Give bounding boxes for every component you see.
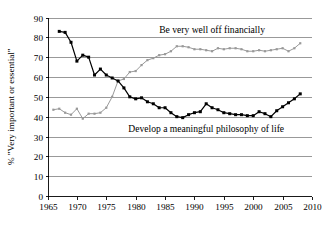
data-point bbox=[246, 50, 248, 52]
chart-container: 0102030405060708090196519701975198019851… bbox=[0, 0, 327, 228]
data-point bbox=[64, 31, 67, 34]
data-point bbox=[258, 49, 260, 51]
data-point bbox=[135, 70, 137, 72]
data-point bbox=[76, 108, 78, 110]
y-tick-label-30: 30 bbox=[34, 133, 44, 143]
data-point bbox=[134, 97, 137, 100]
data-point bbox=[117, 79, 120, 82]
data-point bbox=[293, 97, 296, 100]
data-point bbox=[234, 113, 237, 116]
data-point bbox=[70, 114, 72, 116]
x-tick-label-1995: 1995 bbox=[215, 202, 234, 212]
data-point bbox=[99, 68, 102, 71]
data-point bbox=[246, 114, 249, 117]
data-point bbox=[223, 48, 225, 50]
data-point bbox=[99, 112, 101, 114]
data-point bbox=[140, 96, 143, 99]
data-point bbox=[58, 108, 60, 110]
x-tick-label-2010: 2010 bbox=[303, 202, 322, 212]
data-point bbox=[269, 115, 272, 118]
data-point bbox=[252, 50, 254, 52]
data-point bbox=[93, 113, 95, 115]
data-point bbox=[240, 113, 243, 116]
axes bbox=[49, 18, 313, 197]
x-tick-label-1970: 1970 bbox=[68, 202, 87, 212]
data-point bbox=[169, 111, 172, 114]
data-point bbox=[146, 59, 148, 61]
series-philosophy bbox=[58, 30, 302, 119]
data-point bbox=[293, 47, 295, 49]
data-point bbox=[199, 48, 201, 50]
data-point bbox=[175, 115, 178, 118]
data-point bbox=[58, 30, 61, 33]
data-point bbox=[129, 71, 131, 73]
data-point bbox=[52, 109, 54, 111]
x-tick-label-1990: 1990 bbox=[185, 202, 204, 212]
data-point bbox=[205, 102, 208, 105]
data-point bbox=[105, 74, 108, 77]
data-point bbox=[70, 41, 73, 44]
y-tick-label-0: 0 bbox=[38, 192, 43, 202]
data-point bbox=[75, 60, 78, 63]
data-point bbox=[275, 109, 278, 112]
data-point bbox=[252, 114, 255, 117]
series-line bbox=[53, 43, 300, 118]
data-point bbox=[211, 50, 213, 52]
data-point bbox=[164, 106, 167, 109]
data-point bbox=[187, 46, 189, 48]
y-tick-label-70: 70 bbox=[34, 53, 44, 63]
data-point bbox=[111, 76, 114, 79]
data-point bbox=[93, 74, 96, 77]
data-point bbox=[234, 47, 236, 49]
data-point bbox=[263, 112, 266, 115]
y-tick-label-20: 20 bbox=[34, 152, 44, 162]
data-point bbox=[270, 49, 272, 51]
data-point bbox=[229, 47, 231, 49]
data-point bbox=[122, 86, 125, 89]
data-point bbox=[111, 96, 113, 98]
y-tick-label-40: 40 bbox=[34, 113, 44, 123]
y-tick-label-50: 50 bbox=[34, 93, 44, 103]
y-axis-title: % "Very important or essential" bbox=[6, 48, 16, 165]
data-point bbox=[123, 78, 125, 80]
data-point bbox=[140, 64, 142, 66]
data-point bbox=[299, 92, 302, 95]
data-point bbox=[152, 102, 155, 105]
data-point bbox=[281, 105, 284, 108]
data-point bbox=[258, 110, 261, 113]
y-tick-label-10: 10 bbox=[34, 172, 44, 182]
data-point bbox=[199, 110, 202, 113]
gridlines bbox=[48, 19, 313, 177]
y-axis: 0102030405060708090 bbox=[34, 14, 49, 202]
data-point bbox=[170, 50, 172, 52]
y-tick-label-60: 60 bbox=[34, 73, 44, 83]
data-point bbox=[205, 49, 207, 51]
data-point bbox=[182, 45, 184, 47]
x-tick-label-1965: 1965 bbox=[39, 202, 58, 212]
data-point bbox=[158, 106, 161, 109]
data-point bbox=[152, 57, 154, 59]
data-point bbox=[193, 48, 195, 50]
x-tick-label-1985: 1985 bbox=[156, 202, 175, 212]
data-point bbox=[282, 47, 284, 49]
data-point bbox=[88, 113, 90, 115]
data-point bbox=[222, 111, 225, 114]
data-point bbox=[158, 54, 160, 56]
y-tick-label-90: 90 bbox=[34, 14, 44, 24]
x-tick-label-1980: 1980 bbox=[127, 202, 146, 212]
series-label-philosophy: Develop a meaningful philosophy of life bbox=[128, 123, 284, 134]
data-point bbox=[164, 53, 166, 55]
line-chart: 0102030405060708090196519701975198019851… bbox=[0, 0, 327, 228]
data-point bbox=[128, 95, 131, 98]
x-tick-label-1975: 1975 bbox=[97, 202, 116, 212]
data-point bbox=[82, 118, 84, 120]
data-point bbox=[228, 112, 231, 115]
data-point bbox=[287, 101, 290, 104]
data-point bbox=[87, 56, 90, 59]
data-point bbox=[276, 48, 278, 50]
data-point bbox=[216, 108, 219, 111]
data-point bbox=[181, 116, 184, 119]
data-point bbox=[193, 111, 196, 114]
data-point bbox=[81, 54, 84, 57]
x-tick-label-2000: 2000 bbox=[244, 202, 263, 212]
